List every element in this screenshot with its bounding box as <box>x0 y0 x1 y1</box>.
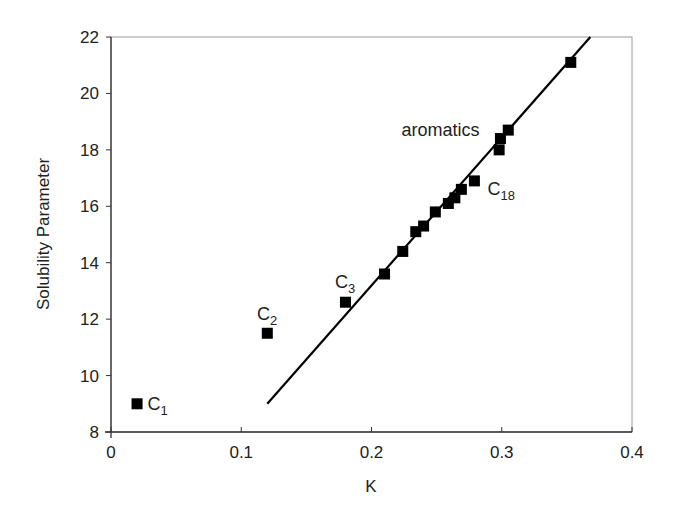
plot-frame <box>111 37 632 432</box>
y-tick-label: 16 <box>80 197 99 216</box>
data-point-marker <box>262 328 273 339</box>
data-point-marker <box>397 246 408 257</box>
y-tick-label: 18 <box>80 141 99 160</box>
y-tick-label: 12 <box>80 310 99 329</box>
data-point-marker <box>565 57 576 68</box>
regression-line <box>267 37 590 404</box>
point-annotation: aromatics <box>401 120 479 140</box>
y-axis-label: Solubility Parameter <box>34 158 53 310</box>
data-point-marker <box>340 297 351 308</box>
data-point-marker <box>503 125 514 136</box>
data-point-marker <box>418 221 429 232</box>
y-tick-label: 20 <box>80 84 99 103</box>
point-annotation: C1 <box>147 394 167 418</box>
data-point-marker <box>456 184 467 195</box>
data-point-marker <box>132 398 143 409</box>
y-tick-label: 22 <box>80 28 99 47</box>
y-tick-label: 10 <box>80 367 99 386</box>
data-points <box>132 57 577 409</box>
y-tick-label: 8 <box>90 423 99 442</box>
point-annotation: C3 <box>335 272 355 296</box>
fit-line <box>267 37 590 404</box>
data-point-marker <box>379 269 390 280</box>
point-annotation: C18 <box>487 179 514 203</box>
x-tick-label: 0.2 <box>360 443 384 462</box>
x-tick-label: 0.4 <box>620 443 644 462</box>
data-point-marker <box>430 206 441 217</box>
x-tick-label: 0.3 <box>490 443 514 462</box>
x-tick-label: 0.1 <box>229 443 253 462</box>
x-tick-label: 0 <box>106 443 115 462</box>
data-point-marker <box>494 144 505 155</box>
x-axis-label: K <box>365 477 377 496</box>
data-point-marker <box>469 175 480 186</box>
point-annotation: C2 <box>257 304 277 328</box>
scatter-chart: 00.10.20.30.4810121416182022 C1C2C3C18ar… <box>0 0 677 520</box>
annotations: C1C2C3C18aromatics <box>147 120 514 418</box>
y-tick-label: 14 <box>80 254 99 273</box>
axes: 00.10.20.30.4810121416182022 <box>80 28 644 462</box>
